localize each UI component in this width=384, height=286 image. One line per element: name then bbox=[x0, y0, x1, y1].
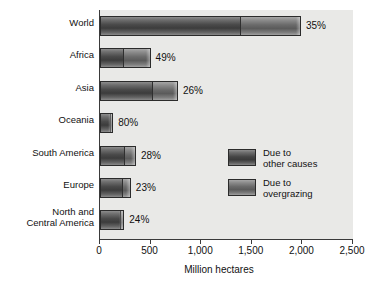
x-axis-tick-label: 1,000 bbox=[188, 245, 213, 256]
bar-segment-other-causes bbox=[122, 179, 130, 197]
x-axis-tick-label: 1,500 bbox=[238, 245, 263, 256]
x-axis-tick bbox=[301, 239, 302, 244]
bar-value-label: 24% bbox=[129, 214, 149, 225]
x-axis-tick bbox=[352, 239, 353, 244]
bar-segment-overgrazing bbox=[101, 82, 152, 100]
category-label: World bbox=[0, 17, 94, 28]
x-axis-tick-label: 0 bbox=[96, 245, 102, 256]
stacked-bar bbox=[100, 48, 151, 68]
legend-swatch bbox=[228, 149, 256, 166]
x-axis-tick-label: 2,500 bbox=[339, 245, 364, 256]
bar-row: Africa49% bbox=[0, 44, 384, 76]
x-axis-title: Million hectares bbox=[0, 264, 384, 275]
bar-row: Oceania80% bbox=[0, 109, 384, 141]
legend-entry: Due to overgrazing bbox=[228, 178, 348, 199]
bar-value-label: 80% bbox=[118, 117, 138, 128]
bar-segment-overgrazing bbox=[101, 114, 110, 132]
x-axis-tick bbox=[99, 239, 100, 244]
bar-segment-overgrazing bbox=[101, 211, 120, 229]
stacked-bar bbox=[100, 113, 113, 133]
category-label: North and Central America bbox=[0, 206, 94, 228]
bar-segment-other-causes bbox=[124, 147, 135, 165]
x-axis-tick bbox=[200, 239, 201, 244]
legend-label: Due to other causes bbox=[263, 148, 317, 169]
x-axis-tick-label: 2,000 bbox=[289, 245, 314, 256]
category-label: Oceania bbox=[0, 114, 94, 125]
bar-row: Asia26% bbox=[0, 77, 384, 109]
bar-row: North and Central America24% bbox=[0, 206, 384, 238]
legend-label: Due to overgrazing bbox=[263, 178, 313, 199]
bar-value-label: 23% bbox=[136, 182, 156, 193]
category-label: South America bbox=[0, 147, 94, 158]
x-axis-tick-label: 500 bbox=[141, 245, 158, 256]
x-axis-line bbox=[99, 239, 353, 240]
bar-segment-other-causes bbox=[240, 17, 300, 35]
category-label: Asia bbox=[0, 82, 94, 93]
bar-segment-overgrazing bbox=[101, 49, 123, 67]
x-axis-tick bbox=[251, 239, 252, 244]
bar-value-label: 35% bbox=[306, 20, 326, 31]
bar-segment-other-causes bbox=[120, 211, 124, 229]
x-axis-tick bbox=[150, 239, 151, 244]
bar-segment-overgrazing bbox=[101, 17, 240, 35]
bar-chart-figure: World35%Africa49%Asia26%Oceania80%South … bbox=[0, 0, 384, 286]
stacked-bar bbox=[100, 178, 131, 198]
legend-swatch bbox=[228, 179, 256, 196]
chart-legend: Due to other causesDue to overgrazing bbox=[228, 148, 348, 208]
bar-segment-overgrazing bbox=[101, 147, 124, 165]
bar-segment-overgrazing bbox=[101, 179, 122, 197]
bar-value-label: 28% bbox=[141, 150, 161, 161]
stacked-bar bbox=[100, 16, 301, 36]
legend-entry: Due to other causes bbox=[228, 148, 348, 169]
x-axis-title-text: Million hectares bbox=[130, 264, 253, 275]
category-label: Europe bbox=[0, 179, 94, 190]
stacked-bar bbox=[100, 81, 178, 101]
bar-segment-other-causes bbox=[110, 114, 112, 132]
category-label: Africa bbox=[0, 49, 94, 60]
stacked-bar bbox=[100, 210, 124, 230]
bar-segment-other-causes bbox=[152, 82, 177, 100]
bar-value-label: 49% bbox=[156, 52, 176, 63]
bar-segment-other-causes bbox=[123, 49, 149, 67]
bar-row: World35% bbox=[0, 12, 384, 44]
stacked-bar bbox=[100, 146, 136, 166]
bar-value-label: 26% bbox=[183, 85, 203, 96]
